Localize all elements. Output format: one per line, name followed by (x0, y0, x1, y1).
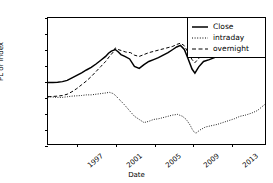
x-tick-mark (116, 144, 117, 147)
x-tick-mark (232, 144, 233, 147)
x-tick-mark (155, 144, 156, 147)
x-tick-mark (77, 144, 78, 147)
legend-item-overnight: overnight (191, 43, 261, 54)
x-tick-mark (193, 144, 194, 147)
y-tick-mark (45, 82, 48, 83)
legend-sample-intraday (191, 34, 209, 42)
x-tick-label: 2005 (164, 152, 183, 170)
x-tick-label: 1997 (86, 152, 105, 170)
x-tick-label: 2001 (125, 152, 144, 170)
legend-label-overnight: overnight (213, 45, 249, 53)
y-tick-mark (45, 34, 48, 35)
legend-sample-overnight (191, 45, 209, 53)
y-tick-mark (45, 98, 48, 99)
series-line-intraday (48, 92, 265, 133)
y-axis-label: PL or Index (0, 42, 5, 81)
chart-legend: Close intraday overnight (187, 17, 266, 58)
legend-item-close: Close (191, 21, 261, 32)
y-tick-mark (45, 66, 48, 67)
legend-item-intraday: intraday (191, 32, 261, 43)
y-tick-mark (45, 114, 48, 115)
x-tick-label: 2009 (203, 152, 222, 170)
chart-figure: PL or Index Date Close intraday overnigh… (0, 0, 273, 183)
legend-sample-close (191, 23, 209, 31)
y-tick-mark (45, 18, 48, 19)
legend-label-close: Close (213, 23, 233, 31)
x-axis-label: Date (0, 171, 273, 179)
y-tick-mark (45, 130, 48, 131)
y-tick-mark (45, 50, 48, 51)
y-tick-mark (45, 146, 48, 147)
x-tick-label: 2013 (241, 152, 260, 170)
legend-label-intraday: intraday (213, 34, 244, 42)
